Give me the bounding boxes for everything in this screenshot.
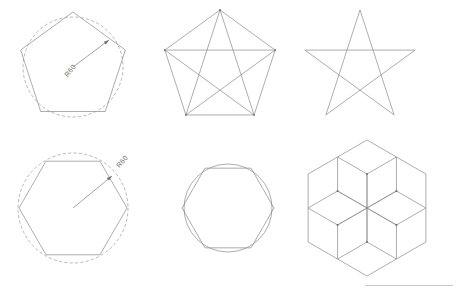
rosette-center-node bbox=[366, 241, 368, 243]
pentagon-diagonal bbox=[186, 50, 275, 115]
vertex-node bbox=[164, 49, 166, 51]
figure-hexagon-with-circle bbox=[170, 145, 295, 275]
pentagon-dimension-arrowhead bbox=[104, 40, 109, 44]
vertex-node bbox=[219, 9, 221, 11]
pentagon-diagonal bbox=[220, 10, 254, 115]
pentagram-outline bbox=[305, 10, 415, 115]
figure-pentagram-star bbox=[290, 0, 457, 140]
hexagon-dimension-leader-line bbox=[73, 176, 112, 208]
rosette-center-node bbox=[337, 190, 339, 192]
rosette-center-node bbox=[366, 173, 368, 175]
rosette-center-node bbox=[395, 224, 397, 226]
figure-hexagon-in-circle: R60 bbox=[0, 140, 160, 275]
inscribed-circle bbox=[184, 164, 272, 252]
pentagon-diagonal bbox=[186, 10, 220, 115]
pentagon-diagonal bbox=[165, 50, 254, 115]
hexagon-outline bbox=[182, 168, 274, 248]
figure-pentagon-with-diagonals bbox=[155, 0, 290, 140]
rosette-center-node bbox=[395, 190, 397, 192]
drawing-sheet: R60 R60 bbox=[0, 0, 457, 295]
figure-pentagon-in-circle: R60 bbox=[0, 0, 160, 140]
pentagon-outline bbox=[21, 12, 126, 112]
title-block-rule bbox=[365, 285, 453, 286]
figure-hexagon-rosette bbox=[290, 140, 457, 280]
vertex-node bbox=[185, 114, 187, 116]
pentagon-dimension-leader-line bbox=[73, 40, 109, 67]
hexagon-dimension-label: R60 bbox=[115, 154, 129, 169]
vertex-node bbox=[274, 49, 276, 51]
vertex-node bbox=[253, 114, 255, 116]
rosette-center-node bbox=[337, 224, 339, 226]
